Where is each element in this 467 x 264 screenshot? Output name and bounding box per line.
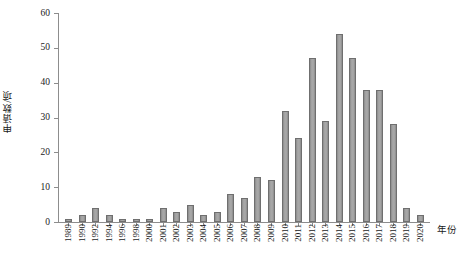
x-axis-tick-label: 2017 [375, 224, 384, 242]
x-axis-tick-label-slot: 2010 [278, 224, 292, 258]
y-axis-tick: 20 [54, 152, 58, 153]
bar [79, 215, 86, 222]
x-axis-title: 年份 [437, 226, 457, 236]
bar [349, 58, 356, 222]
x-axis-tick-label-slot: 1989 [62, 224, 76, 258]
x-axis-tick-label-slot: 2012 [305, 224, 319, 258]
y-axis-tick-label: 10 [41, 183, 55, 193]
x-axis-tick-label-slot: 2005 [211, 224, 225, 258]
x-axis-tick-label: 2020 [416, 224, 425, 242]
bar-slot [373, 13, 387, 222]
bar [403, 208, 410, 222]
x-axis-tick-label-slot: 2006 [224, 224, 238, 258]
x-axis-tick-label: 2014 [335, 224, 344, 242]
x-axis-tick-label: 2005 [213, 224, 222, 242]
x-axis-tick-label-slot: 2001 [157, 224, 171, 258]
bar-slot [400, 13, 414, 222]
x-axis-tick-label: 2003 [186, 224, 195, 242]
x-axis-tick-label: 2009 [267, 224, 276, 242]
x-axis-tick-label-slot: 2015 [346, 224, 360, 258]
y-axis-tick-label: 40 [41, 78, 55, 88]
bar-slot [157, 13, 171, 222]
y-axis-title-text: 申请数/项 [4, 90, 14, 133]
bar [417, 215, 424, 222]
x-axis-tick-label-slot: 2002 [170, 224, 184, 258]
x-axis-tick-label: 2018 [389, 224, 398, 242]
x-axis-tick-label-slot: 2008 [251, 224, 265, 258]
plot-area: 0102030405060 [58, 13, 430, 222]
y-axis-tick: 10 [54, 187, 58, 188]
bar-slot [224, 13, 238, 222]
bar-series [59, 13, 430, 222]
bar-slot [238, 13, 252, 222]
y-axis-tick: 30 [54, 118, 58, 119]
bar-slot [211, 13, 225, 222]
x-axis-tick-label: 2011 [294, 224, 303, 242]
bar-slot [103, 13, 117, 222]
x-axis-tick-label: 1989 [64, 224, 73, 242]
x-axis-tick-label-slot: 1992 [89, 224, 103, 258]
bar-slot [319, 13, 333, 222]
x-axis-tick-label-slot: 2020 [413, 224, 427, 258]
bar [309, 58, 316, 222]
y-axis-title: 申请数/项 [0, 0, 18, 222]
bar-slot [76, 13, 90, 222]
x-axis-tick-label-slot: 2009 [265, 224, 279, 258]
bar-slot [130, 13, 144, 222]
x-axis-tick-label-slot: 2000 [143, 224, 157, 258]
bar-slot [265, 13, 279, 222]
bar-slot [143, 13, 157, 222]
x-axis-tick-label: 2007 [240, 224, 249, 242]
x-axis-tick-label: 1998 [132, 224, 141, 242]
bar [282, 111, 289, 222]
x-axis-tick-labels: 1989199019921994199619982000200120022003… [59, 224, 430, 258]
bar [92, 208, 99, 222]
y-axis-tick-label: 50 [41, 44, 55, 54]
bar-slot [292, 13, 306, 222]
bar-slot [197, 13, 211, 222]
y-axis-tick: 60 [54, 13, 58, 14]
x-axis-tick-label-slot: 2019 [400, 224, 414, 258]
x-axis-tick-label-slot: 2018 [386, 224, 400, 258]
y-axis-tick-label: 30 [41, 113, 55, 123]
x-axis-tick-label-slot: 1990 [76, 224, 90, 258]
bar-slot [170, 13, 184, 222]
y-axis-tick: 0 [54, 222, 58, 223]
bar [227, 194, 234, 222]
bar-slot [386, 13, 400, 222]
x-axis-tick-label: 2006 [226, 224, 235, 242]
bar [160, 208, 167, 222]
x-axis-tick-label: 2008 [253, 224, 262, 242]
bar-slot [305, 13, 319, 222]
x-axis-tick-label: 2012 [308, 224, 317, 242]
x-axis-tick-label-slot: 2003 [184, 224, 198, 258]
bar-slot [413, 13, 427, 222]
bar [336, 34, 343, 222]
bar [200, 215, 207, 222]
x-axis-tick-label-slot: 1998 [130, 224, 144, 258]
bar [106, 215, 113, 222]
x-axis-tick-label: 2010 [281, 224, 290, 242]
x-axis-tick-label-slot: 1996 [116, 224, 130, 258]
bar [295, 138, 302, 222]
x-axis-tick-label: 1992 [91, 224, 100, 242]
bar [254, 177, 261, 222]
y-axis-tick-label: 60 [41, 9, 55, 19]
bar-slot [278, 13, 292, 222]
y-axis-tick-label: 0 [45, 218, 54, 228]
bar [376, 90, 383, 222]
x-axis-tick-label: 1990 [78, 224, 87, 242]
x-axis-tick-label: 2015 [348, 224, 357, 242]
bar-slot [116, 13, 130, 222]
bar-slot [89, 13, 103, 222]
bar-slot [332, 13, 346, 222]
bar-slot [184, 13, 198, 222]
bar [241, 198, 248, 222]
x-axis-tick-label-slot: 1994 [103, 224, 117, 258]
x-axis-tick-label-slot: 2013 [319, 224, 333, 258]
bar-chart-figure: 申请数/项 0102030405060 19891990199219941996… [0, 0, 467, 264]
x-axis-tick-label: 2013 [321, 224, 330, 242]
x-axis-tick-label-slot: 2016 [359, 224, 373, 258]
x-axis-tick-label: 1996 [118, 224, 127, 242]
x-axis-tick-label: 2000 [145, 224, 154, 242]
